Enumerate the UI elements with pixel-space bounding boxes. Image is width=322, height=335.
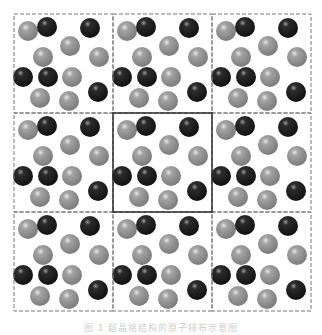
black-atom bbox=[278, 216, 298, 236]
gray-atom bbox=[159, 135, 179, 155]
gray-atom bbox=[62, 166, 82, 186]
black-atom bbox=[187, 82, 207, 102]
black-atom bbox=[13, 67, 33, 87]
black-atom bbox=[286, 82, 306, 102]
gray-atom bbox=[161, 166, 181, 186]
gray-atom bbox=[258, 36, 278, 56]
black-atom bbox=[136, 17, 156, 37]
gray-atom bbox=[231, 245, 251, 265]
black-atom bbox=[112, 166, 132, 186]
gray-atom bbox=[132, 146, 152, 166]
gray-atom bbox=[60, 135, 80, 155]
gray-atom bbox=[132, 47, 152, 67]
gray-atom bbox=[129, 88, 149, 108]
gray-atom bbox=[260, 166, 280, 186]
gray-atom bbox=[59, 289, 79, 309]
gray-atom bbox=[18, 21, 38, 41]
gray-atom bbox=[30, 286, 50, 306]
black-atom bbox=[13, 265, 33, 285]
gray-atom bbox=[129, 187, 149, 207]
gray-atom bbox=[260, 265, 280, 285]
gray-atom bbox=[129, 286, 149, 306]
gray-atom bbox=[60, 36, 80, 56]
black-atom bbox=[137, 265, 157, 285]
gray-atom bbox=[287, 245, 307, 265]
gray-atom bbox=[117, 120, 137, 140]
gray-atom bbox=[117, 21, 137, 41]
gray-atom bbox=[159, 234, 179, 254]
black-atom bbox=[278, 18, 298, 38]
black-atom bbox=[38, 265, 58, 285]
gray-atom bbox=[258, 135, 278, 155]
black-atom bbox=[211, 67, 231, 87]
gray-atom bbox=[132, 245, 152, 265]
gray-atom bbox=[257, 289, 277, 309]
black-atom bbox=[235, 215, 255, 235]
black-atom bbox=[137, 166, 157, 186]
gray-atom bbox=[18, 120, 38, 140]
atoms-layer bbox=[13, 17, 307, 309]
black-atom bbox=[286, 181, 306, 201]
black-atom bbox=[187, 181, 207, 201]
lattice-diagram bbox=[0, 0, 322, 335]
black-atom bbox=[211, 265, 231, 285]
black-atom bbox=[88, 82, 108, 102]
black-atom bbox=[38, 166, 58, 186]
black-atom bbox=[179, 216, 199, 236]
black-atom bbox=[136, 215, 156, 235]
black-atom bbox=[236, 265, 256, 285]
gray-atom bbox=[18, 219, 38, 239]
gray-atom bbox=[30, 88, 50, 108]
gray-atom bbox=[117, 219, 137, 239]
gray-atom bbox=[188, 47, 208, 67]
black-atom bbox=[13, 166, 33, 186]
black-atom bbox=[80, 117, 100, 137]
black-atom bbox=[278, 117, 298, 137]
black-atom bbox=[112, 265, 132, 285]
gray-atom bbox=[231, 146, 251, 166]
gray-atom bbox=[30, 187, 50, 207]
gray-atom bbox=[188, 245, 208, 265]
gray-atom bbox=[59, 190, 79, 210]
black-atom bbox=[137, 67, 157, 87]
black-atom bbox=[80, 18, 100, 38]
gray-atom bbox=[161, 265, 181, 285]
gray-atom bbox=[216, 21, 236, 41]
black-atom bbox=[286, 280, 306, 300]
black-atom bbox=[187, 280, 207, 300]
black-atom bbox=[211, 166, 231, 186]
gray-atom bbox=[258, 234, 278, 254]
gray-atom bbox=[89, 245, 109, 265]
black-atom bbox=[235, 116, 255, 136]
gray-atom bbox=[228, 286, 248, 306]
black-atom bbox=[136, 116, 156, 136]
gray-atom bbox=[287, 47, 307, 67]
black-atom bbox=[37, 215, 57, 235]
gray-atom bbox=[158, 91, 178, 111]
black-atom bbox=[236, 67, 256, 87]
gray-atom bbox=[228, 187, 248, 207]
figure-caption: 图 1 超晶格结构的原子排布示意图 bbox=[0, 321, 322, 334]
gray-atom bbox=[89, 146, 109, 166]
black-atom bbox=[88, 181, 108, 201]
gray-atom bbox=[33, 245, 53, 265]
gray-atom bbox=[257, 91, 277, 111]
gray-atom bbox=[216, 219, 236, 239]
black-atom bbox=[37, 116, 57, 136]
gray-atom bbox=[161, 67, 181, 87]
gray-atom bbox=[33, 47, 53, 67]
gray-atom bbox=[33, 146, 53, 166]
gray-atom bbox=[89, 47, 109, 67]
gray-atom bbox=[158, 190, 178, 210]
gray-atom bbox=[216, 120, 236, 140]
black-atom bbox=[88, 280, 108, 300]
black-atom bbox=[112, 67, 132, 87]
black-atom bbox=[235, 17, 255, 37]
black-atom bbox=[236, 166, 256, 186]
gray-atom bbox=[257, 190, 277, 210]
gray-atom bbox=[188, 146, 208, 166]
black-atom bbox=[38, 67, 58, 87]
gray-atom bbox=[158, 289, 178, 309]
black-atom bbox=[179, 18, 199, 38]
gray-atom bbox=[60, 234, 80, 254]
